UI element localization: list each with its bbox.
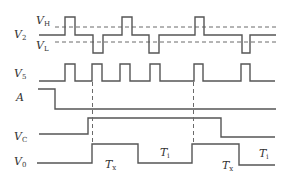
v0-label: V0 (14, 155, 26, 169)
vc-label: VC (14, 130, 27, 144)
a-waveform (38, 89, 276, 109)
v5-label: V5 (14, 67, 26, 81)
timing-diagram: V2 VH VL V5 A VC V0 Tx Ti Tx Ti (0, 0, 291, 180)
vl-label: VL (36, 39, 49, 53)
ti-label-2: Ti (259, 147, 269, 161)
vh-label: VH (36, 14, 50, 28)
v5-waveform (39, 64, 275, 81)
ti-label-1: Ti (160, 146, 170, 160)
v0-waveform (37, 144, 275, 165)
tx-label-2: Tx (222, 159, 233, 173)
vc-waveform (39, 118, 275, 137)
v2-label: V2 (14, 28, 26, 42)
a-label: A (15, 91, 24, 104)
v2-waveform (39, 17, 276, 53)
tx-label-1: Tx (105, 158, 116, 172)
